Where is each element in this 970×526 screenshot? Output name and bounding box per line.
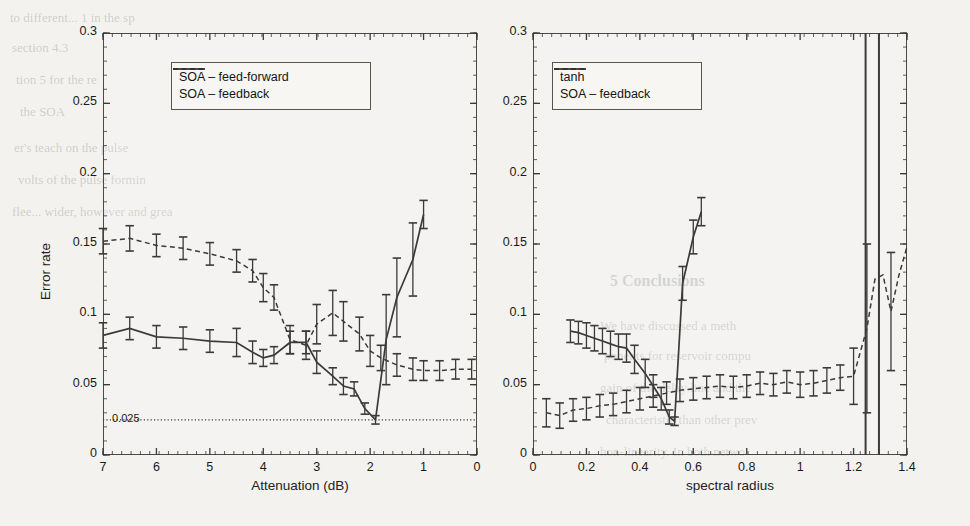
right-legend: tanh SOA – feedback — [552, 62, 702, 110]
series-soa-feedback — [566, 198, 705, 426]
y-tick-label: 0.2 — [481, 165, 527, 179]
y-tick-label: 0.05 — [481, 376, 527, 390]
legend-item-soa-feedback: SOA – feedback — [560, 85, 692, 102]
x-tick-label: 1.4 — [885, 460, 929, 474]
legend-label: SOA – feedback — [560, 87, 650, 101]
y-tick-label: 0.15 — [481, 235, 527, 249]
figure-page: to different... 1 in the sp section 4.3 … — [0, 0, 970, 526]
y-tick-label: 0.25 — [481, 94, 527, 108]
y-tick-label: 0 — [481, 446, 527, 460]
x-tick-label: 0.2 — [564, 460, 608, 474]
series-tanh — [542, 244, 907, 428]
x-tick-label: 1.2 — [832, 460, 876, 474]
x-tick-label: 0.8 — [725, 460, 769, 474]
x-tick-label: 0.4 — [618, 460, 662, 474]
spectral-radius-panel: spectral radius tanh SOA – feedback 00.2… — [0, 0, 970, 526]
y-tick-label: 0.3 — [481, 24, 527, 38]
x-tick-label: 1 — [778, 460, 822, 474]
y-tick-label: 0.1 — [481, 305, 527, 319]
x-tick-label: 0.6 — [671, 460, 715, 474]
x-tick-label: 0 — [511, 460, 555, 474]
solid-line-key-icon — [553, 63, 587, 75]
